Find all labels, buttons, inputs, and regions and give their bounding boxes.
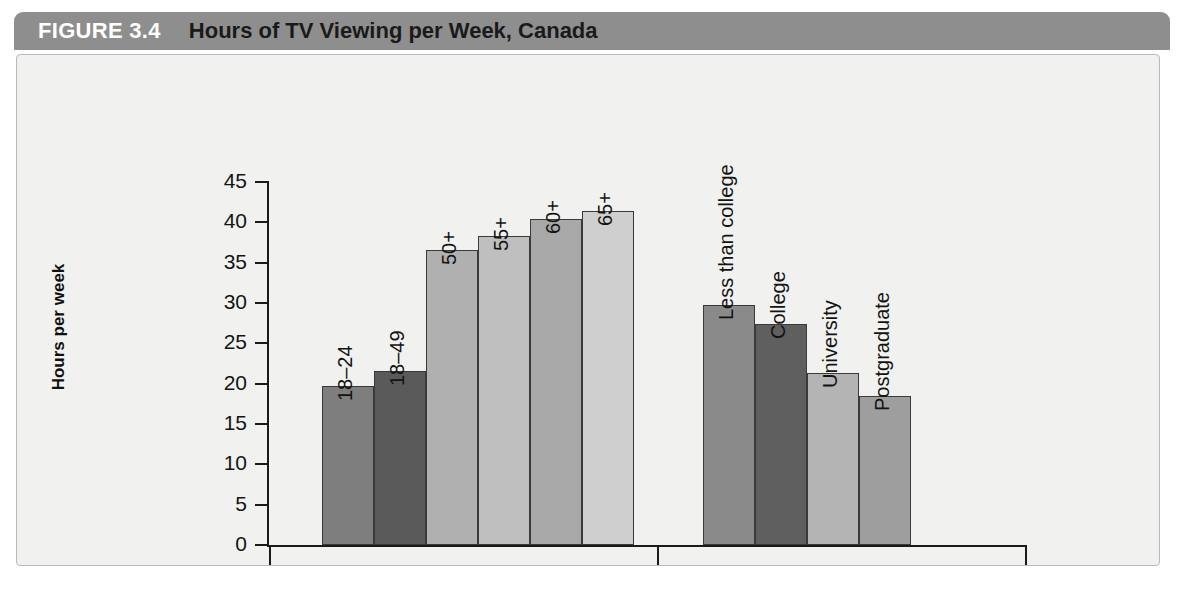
bar	[859, 396, 911, 545]
y-axis-tick	[255, 544, 267, 546]
bar	[322, 386, 374, 545]
chart-panel: Hours per week 05101520253035404518–2418…	[16, 54, 1160, 566]
y-axis-tick-label: 25	[205, 330, 247, 354]
bar-value-label: University	[819, 300, 842, 388]
bar	[755, 324, 807, 545]
y-axis-tick	[255, 383, 267, 385]
bar	[703, 305, 755, 545]
group-axis-label: Age cohort	[269, 561, 657, 566]
y-axis-tick	[255, 221, 267, 223]
y-axis-tick-label: 5	[205, 492, 247, 516]
bar-value-label: College	[767, 271, 790, 339]
y-axis-tick-label: 45	[205, 169, 247, 193]
bar-value-label: Less than college	[715, 165, 738, 321]
bar-value-label: 60+	[542, 200, 565, 234]
y-axis-tick-label: 40	[205, 209, 247, 233]
y-axis-tick	[255, 181, 267, 183]
bar-value-label: 65+	[594, 192, 617, 226]
y-axis-tick	[255, 504, 267, 506]
y-axis-tick	[255, 463, 267, 465]
x-axis-line	[267, 545, 1027, 547]
bar	[807, 373, 859, 545]
y-axis-tick	[255, 423, 267, 425]
y-axis-tick-label: 20	[205, 371, 247, 395]
y-axis-tick	[255, 262, 267, 264]
bar-value-label: 55+	[490, 217, 513, 251]
group-axis-label: Education	[657, 561, 1025, 566]
bar	[426, 250, 478, 545]
bar	[478, 236, 530, 545]
bar-value-label: 18–49	[386, 330, 409, 386]
y-axis-tick-label: 35	[205, 250, 247, 274]
y-axis-title: Hours per week	[49, 237, 69, 417]
y-axis-tick	[255, 302, 267, 304]
figure-container: FIGURE 3.4 Hours of TV Viewing per Week,…	[14, 12, 1170, 578]
bar	[582, 211, 634, 545]
y-axis-tick-label: 10	[205, 451, 247, 475]
y-axis-line	[267, 181, 269, 547]
y-axis-tick	[255, 342, 267, 344]
group-separator	[1025, 545, 1027, 566]
figure-number-label: FIGURE 3.4	[38, 18, 161, 44]
bar-value-label: 18–24	[334, 345, 357, 401]
y-axis-tick-label: 0	[205, 532, 247, 556]
y-axis-tick-label: 30	[205, 290, 247, 314]
y-axis-tick-label: 15	[205, 411, 247, 435]
bar-value-label: 50+	[438, 231, 461, 265]
figure-header-bar: FIGURE 3.4 Hours of TV Viewing per Week,…	[14, 12, 1170, 50]
figure-title: Hours of TV Viewing per Week, Canada	[189, 18, 598, 44]
plot-area: Hours per week 05101520253035404518–2418…	[17, 55, 1159, 565]
bar-value-label: Postgraduate	[871, 292, 894, 411]
bar	[530, 219, 582, 545]
bar	[374, 371, 426, 545]
